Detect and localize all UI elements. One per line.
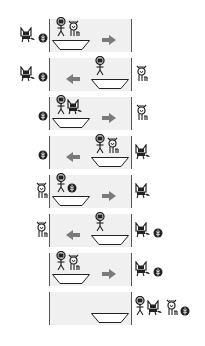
river	[49, 214, 132, 247]
farmer-icon	[56, 95, 66, 119]
wolf-icon	[135, 144, 151, 164]
right-bank	[135, 183, 151, 203]
arrow-right-icon	[102, 108, 116, 118]
boat	[91, 219, 129, 245]
goat-icon	[135, 64, 148, 86]
river	[49, 136, 132, 169]
right-bank	[135, 300, 190, 320]
boat-passengers	[56, 173, 77, 197]
step-row-2	[0, 58, 205, 91]
step-row-5	[0, 175, 205, 208]
step-row-7	[0, 253, 205, 286]
wolf-icon	[20, 66, 36, 86]
boat-passengers	[95, 212, 105, 236]
step-row-6	[0, 214, 205, 247]
farmer-icon	[135, 296, 145, 320]
left-bank	[38, 105, 48, 125]
boat	[52, 180, 90, 206]
farmer-icon	[56, 173, 66, 197]
cabbage-icon	[38, 67, 48, 86]
wolf-icon	[135, 222, 151, 242]
left-bank	[20, 27, 48, 47]
arrow-left-icon	[66, 147, 80, 157]
step-row-3	[0, 97, 205, 130]
farmer-icon	[56, 251, 66, 275]
goat-icon	[35, 220, 48, 242]
river	[49, 58, 132, 91]
farmer-icon	[56, 17, 66, 41]
boat-passengers	[56, 95, 83, 119]
goat-icon	[106, 136, 119, 158]
wolf-icon	[147, 300, 163, 320]
farmer-icon	[95, 56, 105, 80]
boat	[91, 63, 129, 89]
right-bank	[135, 222, 163, 242]
boat	[91, 297, 129, 323]
right-bank	[135, 261, 163, 281]
river	[49, 253, 132, 286]
right-bank	[135, 66, 148, 86]
river	[49, 19, 132, 52]
arrow-right-icon	[102, 264, 116, 274]
cabbage-icon	[153, 223, 163, 242]
boat	[52, 258, 90, 284]
right-bank	[135, 105, 148, 125]
boat-passengers	[95, 56, 105, 80]
arrow-right-icon	[102, 186, 116, 196]
wolf-icon	[135, 183, 151, 203]
boat	[52, 102, 90, 128]
boat	[91, 141, 129, 167]
left-bank	[35, 222, 48, 242]
step-row-1	[0, 19, 205, 52]
wolf-icon	[135, 261, 151, 281]
boat-passengers	[95, 134, 119, 158]
right-bank	[135, 144, 151, 164]
river	[49, 175, 132, 208]
cabbage-icon	[38, 145, 48, 164]
cabbage-icon	[153, 262, 163, 281]
step-row-8	[0, 292, 205, 325]
boat	[52, 24, 90, 50]
river	[49, 97, 132, 130]
arrow-left-icon	[66, 69, 80, 79]
arrow-right-icon	[102, 30, 116, 40]
wolf-icon	[67, 99, 83, 119]
left-bank	[35, 183, 48, 203]
arrow-left-icon	[66, 225, 80, 235]
farmer-icon	[95, 212, 105, 236]
goat-icon	[165, 298, 178, 320]
boat-passengers	[56, 17, 80, 41]
cabbage-icon	[38, 106, 48, 125]
cabbage-icon	[67, 178, 77, 197]
wolf-icon	[20, 27, 36, 47]
cabbage-icon	[180, 301, 190, 320]
boat-passengers	[56, 251, 80, 275]
cabbage-icon	[38, 28, 48, 47]
step-row-4	[0, 136, 205, 169]
left-bank	[20, 66, 48, 86]
goat-icon	[67, 19, 80, 41]
farmer-icon	[95, 134, 105, 158]
goat-icon	[135, 103, 148, 125]
goat-icon	[35, 181, 48, 203]
left-bank	[38, 144, 48, 164]
river	[49, 292, 132, 325]
goat-icon	[67, 253, 80, 275]
